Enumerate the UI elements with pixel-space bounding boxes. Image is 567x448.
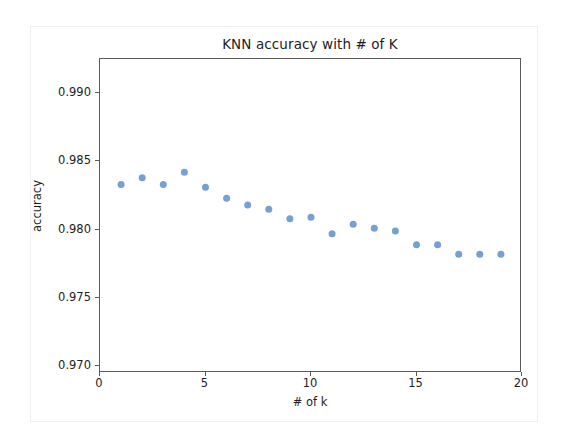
- data-point: [265, 206, 272, 213]
- data-point: [308, 214, 315, 221]
- y-tick-mark: [95, 365, 99, 366]
- data-point: [392, 228, 399, 235]
- x-tick-label: 5: [201, 376, 208, 390]
- data-point: [181, 169, 188, 176]
- chart-title: KNN accuracy with # of K: [99, 36, 521, 52]
- data-point: [497, 251, 504, 258]
- data-point: [476, 251, 483, 258]
- x-tick-label: 0: [95, 376, 102, 390]
- x-tick-label: 20: [514, 376, 529, 390]
- data-point: [371, 225, 378, 232]
- y-tick-label: 0.975: [33, 290, 91, 304]
- y-tick-mark: [95, 92, 99, 93]
- data-point: [223, 195, 230, 202]
- y-tick-mark: [95, 297, 99, 298]
- x-axis-tick-labels: 05101520: [99, 376, 521, 394]
- y-axis-label: accuracy: [30, 156, 44, 256]
- data-point: [455, 251, 462, 258]
- scatter-plot-area: [100, 59, 522, 373]
- y-tick-label: 0.970: [33, 358, 91, 372]
- data-point: [202, 184, 209, 191]
- data-point: [413, 241, 420, 248]
- x-axis-label: # of k: [99, 395, 521, 409]
- chart-figure: KNN accuracy with # of K 0.9700.9750.980…: [0, 0, 567, 448]
- data-point: [118, 181, 125, 188]
- y-tick-mark: [95, 160, 99, 161]
- data-point: [160, 181, 167, 188]
- y-tick-label: 0.990: [33, 85, 91, 99]
- data-point: [139, 174, 146, 181]
- plot-axes-frame: [99, 58, 521, 372]
- data-point-group: [118, 169, 505, 258]
- x-tick-label: 10: [303, 376, 318, 390]
- x-tick-label: 15: [408, 376, 423, 390]
- data-point: [286, 215, 293, 222]
- data-point: [329, 230, 336, 237]
- y-axis-tick-marks: [95, 58, 99, 372]
- data-point: [434, 241, 441, 248]
- data-point: [244, 202, 251, 209]
- data-point: [350, 221, 357, 228]
- y-tick-mark: [95, 229, 99, 230]
